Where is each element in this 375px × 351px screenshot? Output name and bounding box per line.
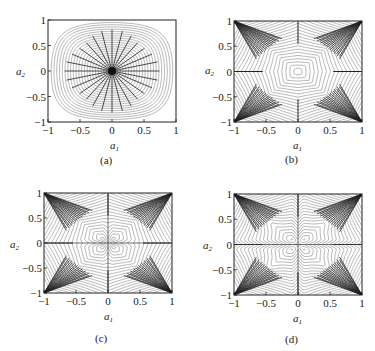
x-tick-label: 0.5 [323, 124, 337, 136]
y-tick-label: 1 [37, 187, 43, 199]
x-tick-label: −0.5 [256, 124, 276, 136]
y-tick-label: 1 [227, 188, 233, 200]
x-tick-label: 1 [359, 297, 365, 309]
center-sink [108, 67, 116, 75]
panel-c: −1−0.500.51 10.50−0.5−1 a1 a2 (c) [10, 187, 175, 345]
y-tick-label: −1 [34, 116, 46, 128]
x-tick-label: 0.5 [133, 295, 147, 307]
caption-a: (a) [100, 154, 113, 167]
contour-level [278, 55, 319, 87]
contour-level [265, 46, 330, 97]
panel-d: −1−0.500.51 10.50−0.5−1 a1 a2 (d) [203, 188, 365, 346]
caption-b: (b) [285, 153, 298, 166]
y-tick-label: −0.5 [26, 91, 46, 103]
x-axis-label-c: a1 [104, 310, 113, 324]
y-axis-label-c: a2 [10, 238, 20, 252]
panel-a: −1−0.500.51 10.50−0.5−1 a1 a2 (a) [16, 14, 179, 167]
y-tick-label: 0.5 [218, 40, 232, 52]
y-tick-label: 0.5 [32, 40, 46, 52]
x-tick-label: 0.5 [323, 297, 337, 309]
figure: −1−0.500.51 10.50−0.5−1 a1 a2 (a) −1−0.5… [0, 0, 375, 351]
y-tick-label: −1 [220, 289, 232, 301]
contour-level [261, 43, 334, 101]
gradient-lines-d [232, 192, 365, 298]
x-tick-label: −0.5 [66, 295, 86, 307]
y-tick-label: −0.5 [212, 91, 232, 103]
caption-c: (c) [95, 332, 108, 345]
y-tick-label: 0 [227, 239, 233, 251]
x-tick-label: 1 [359, 124, 365, 136]
caption-d: (d) [285, 333, 298, 346]
contour-level [274, 52, 323, 91]
y-tick-label: −0.5 [212, 264, 232, 276]
contour-level [282, 59, 315, 85]
y-tick-label: −1 [220, 116, 232, 128]
y-tick-label: 1 [227, 15, 233, 27]
x-axis-label-a: a1 [110, 139, 119, 153]
y-axis-label-a: a2 [16, 65, 26, 79]
y-tick-label: 0.5 [218, 213, 232, 225]
x-tick-label: −0.5 [256, 297, 276, 309]
y-ticks-c: 10.50−0.5−1 [22, 187, 47, 299]
x-tick-label: 1 [169, 295, 175, 307]
contour-level [286, 62, 310, 81]
y-tick-label: 1 [41, 14, 47, 26]
x-tick-label: 0.5 [137, 124, 151, 136]
y-ticks-d: 10.50−0.5−1 [212, 188, 237, 301]
x-tick-label: 0 [109, 124, 115, 136]
x-axis-label-b: a1 [293, 139, 302, 153]
y-tick-label: 0.5 [28, 212, 42, 224]
gradient-lines-b [232, 19, 365, 125]
y-axis-label-d: a2 [203, 239, 213, 253]
x-axis-label-d: a1 [293, 312, 302, 326]
x-tick-label: −0.5 [70, 124, 90, 136]
y-tick-label: 0 [37, 237, 43, 249]
panel-b: −1−0.500.51 10.50−0.5−1 a1 a2 (b) [205, 15, 365, 166]
y-tick-label: −0.5 [22, 262, 42, 274]
x-tick-label: 0 [295, 297, 301, 309]
contour-level [294, 68, 302, 74]
x-tick-label: 1 [173, 124, 179, 136]
y-tick-label: 0 [41, 65, 47, 77]
gradient-lines-c [42, 191, 175, 296]
y-tick-label: −1 [30, 287, 42, 299]
y-ticks-a: 10.50−0.5−1 [26, 14, 51, 128]
contour-level [290, 65, 306, 78]
y-ticks-b: 10.50−0.5−1 [212, 15, 237, 128]
x-tick-label: 0 [105, 295, 111, 307]
y-tick-label: 0 [227, 66, 233, 78]
y-axis-label-b: a2 [205, 64, 215, 78]
x-tick-label: 0 [295, 124, 301, 136]
